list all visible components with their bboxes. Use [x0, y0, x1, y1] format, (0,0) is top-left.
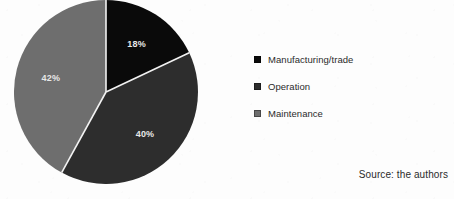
legend-swatch-operation — [254, 83, 261, 90]
legend-item-operation[interactable]: Operation — [254, 80, 444, 93]
legend-swatch-maintenance — [254, 110, 261, 117]
legend-item-manufacturing-trade[interactable]: Manufacturing/trade — [254, 53, 444, 66]
pie-svg: 18%40%42% — [14, 0, 198, 184]
chart-legend: Manufacturing/trade Operation Maintenanc… — [254, 53, 444, 134]
legend-item-maintenance[interactable]: Maintenance — [254, 107, 444, 120]
pie-chart-figure: 18%40%42% Manufacturing/trade Operation … — [0, 0, 454, 199]
pie-slice-label: 42% — [41, 73, 60, 83]
pie-chart: 18%40%42% — [14, 0, 198, 184]
legend-label-manufacturing-trade: Manufacturing/trade — [268, 53, 353, 66]
source-note: Source: the authors — [359, 169, 448, 180]
legend-swatch-manufacturing-trade — [254, 56, 261, 63]
pie-slice-label: 18% — [127, 39, 146, 49]
legend-label-maintenance: Maintenance — [268, 107, 323, 120]
pie-slice-label: 40% — [136, 129, 155, 139]
legend-label-operation: Operation — [268, 80, 310, 93]
